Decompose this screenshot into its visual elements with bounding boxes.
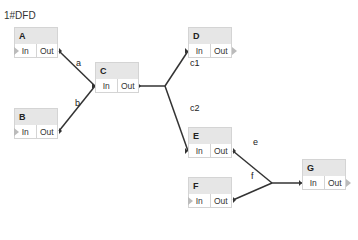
edge-label-b: b — [75, 98, 80, 108]
node-title: F — [189, 178, 231, 194]
edge-c2 — [165, 86, 188, 151]
node-title: E — [189, 128, 231, 144]
out-arrow-icon — [346, 179, 351, 187]
out-port[interactable]: Out — [118, 79, 139, 93]
edge-label-c1: c1 — [190, 58, 200, 68]
process-node-e[interactable]: E In Out — [188, 127, 232, 158]
in-port[interactable]: In — [189, 44, 211, 58]
process-node-b[interactable]: B In Out — [14, 108, 58, 139]
out-port[interactable]: Out — [37, 44, 58, 58]
node-title: C — [96, 63, 138, 79]
node-title: A — [15, 28, 57, 44]
in-arrow-icon — [188, 197, 193, 205]
in-port[interactable]: In — [189, 144, 211, 158]
in-arrow-icon — [14, 47, 19, 55]
process-node-c[interactable]: C In Out — [95, 62, 139, 93]
process-node-g[interactable]: G In Out — [302, 159, 346, 190]
edge-a — [59, 51, 95, 86]
process-node-f[interactable]: F In Out — [188, 177, 232, 208]
node-title: D — [189, 28, 231, 44]
edge-b — [59, 86, 95, 131]
out-arrow-icon — [232, 47, 237, 55]
out-port[interactable]: Out — [37, 125, 58, 139]
node-title: G — [303, 160, 345, 176]
out-port[interactable]: Out — [325, 176, 346, 190]
in-arrow-icon — [14, 128, 19, 136]
in-port[interactable]: In — [96, 79, 118, 93]
edge-f — [233, 183, 272, 200]
in-port[interactable]: In — [303, 176, 325, 190]
out-port[interactable]: Out — [211, 194, 232, 208]
process-node-a[interactable]: A In Out — [14, 27, 58, 58]
out-port[interactable]: Out — [211, 44, 232, 58]
process-node-d[interactable]: D In Out — [188, 27, 232, 58]
edge-label-c2: c2 — [190, 103, 200, 113]
edge-label-e: e — [253, 137, 258, 147]
out-port[interactable]: Out — [211, 144, 232, 158]
edge-c1 — [165, 51, 188, 86]
edge-label-f: f — [251, 171, 254, 181]
edge-label-a: a — [76, 58, 81, 68]
node-title: B — [15, 109, 57, 125]
